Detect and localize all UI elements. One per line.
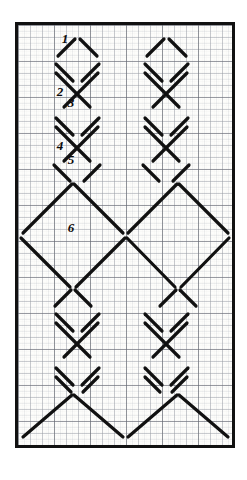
graph-paper-frame: 1 2 3 4 5 6 — [15, 22, 235, 448]
segment-label-3: 3 — [67, 95, 75, 110]
segment-label-2: 2 — [56, 84, 64, 99]
segment-label-4: 4 — [56, 138, 64, 153]
segment-label-6: 6 — [68, 220, 75, 235]
segment-label-layer: 1 2 3 4 5 6 — [18, 25, 232, 445]
segment-label-5: 5 — [68, 152, 75, 167]
figure-page: 1 2 3 4 5 6 — [0, 0, 247, 480]
segment-label-1: 1 — [62, 31, 69, 46]
